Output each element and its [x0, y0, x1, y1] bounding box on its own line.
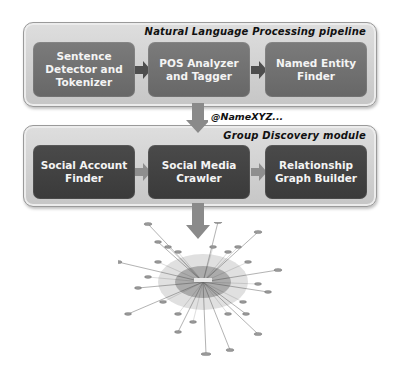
named-entity-finder-box: Named Entity Finder [265, 42, 367, 97]
group-discovery-title: Group Discovery module [223, 130, 366, 141]
relationship-graph-builder-box: Relationship Graph Builder [265, 145, 367, 199]
arrow-down-icon [186, 203, 210, 239]
stage-label: Relationship Graph Builder [265, 159, 367, 185]
social-account-finder-box: Social Account Finder [33, 145, 135, 199]
network-graph-icon [118, 222, 288, 360]
nlp-pipeline-title: Natural Language Processing pipeline [145, 26, 366, 37]
nlp-pipeline-panel: Natural Language Processing pipeline Sen… [23, 22, 377, 107]
arrow-down-icon [186, 103, 210, 133]
stage-label: Named Entity Finder [265, 57, 367, 83]
social-media-crawler-box: Social Media Crawler [148, 145, 250, 199]
sentence-detector-tokenizer-box: Sentence Detector and Tokenizer [33, 42, 135, 97]
stage-label: Social Media Crawler [148, 159, 250, 185]
group-discovery-panel: Group Discovery module Social Account Fi… [23, 125, 377, 207]
stage-label: Social Account Finder [33, 159, 135, 185]
mention-label: @NameXYZ... [208, 111, 286, 122]
pos-analyzer-tagger-box: POS Analyzer and Tagger [148, 42, 250, 97]
stage-label: Sentence Detector and Tokenizer [33, 50, 135, 89]
stage-label: POS Analyzer and Tagger [148, 57, 250, 83]
